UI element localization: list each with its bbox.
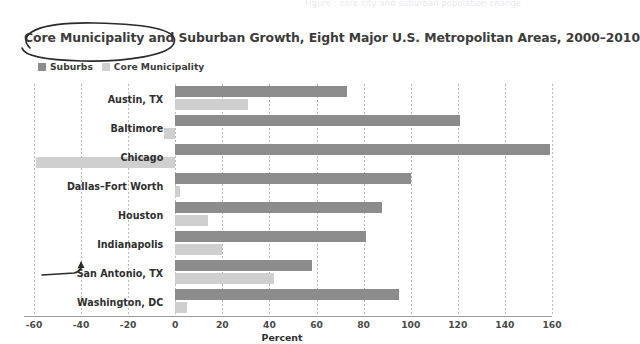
- bar-suburbs-5: [175, 231, 366, 242]
- faint-header-text: Figure · core city and suburban populati…: [305, 0, 565, 10]
- category-label-6: San Antonio, TX: [0, 259, 169, 288]
- bar-suburbs-6: [175, 260, 312, 271]
- bar-core-municipality-4: [175, 215, 208, 226]
- x-tick-label-160: 160: [542, 319, 561, 330]
- bar-suburbs-4: [175, 202, 382, 213]
- legend-label-core-municipality: Core Municipality: [114, 61, 204, 72]
- bar-core-municipality-1: [164, 128, 176, 139]
- bar-core-municipality-6: [175, 273, 274, 284]
- x-tick-label-0: 0: [172, 319, 178, 330]
- category-label-5: Indianapolis: [0, 230, 169, 259]
- bar-core-municipality-5: [175, 244, 222, 255]
- x-tick-label--20: -20: [120, 319, 137, 330]
- x-tick-label-120: 120: [448, 319, 467, 330]
- chart-row: Indianapolis: [0, 230, 564, 259]
- legend-label-suburbs: Suburbs: [50, 61, 93, 72]
- bar-core-municipality-0: [175, 99, 248, 110]
- legend-swatch-core-municipality: [102, 63, 110, 71]
- bar-suburbs-1: [175, 115, 460, 126]
- x-tick-label-80: 80: [357, 319, 370, 330]
- bar-core-municipality-2: [36, 157, 175, 168]
- chart-legend: Suburbs Core Municipality: [38, 61, 204, 72]
- chart-row: Baltimore: [0, 114, 564, 143]
- x-tick-label-60: 60: [310, 319, 323, 330]
- category-label-4: Houston: [0, 201, 169, 230]
- bar-core-municipality-7: [175, 302, 187, 313]
- chart-row: Dallas–Fort Worth: [0, 172, 564, 201]
- category-label-0: Austin, TX: [0, 85, 169, 114]
- x-tick-label-140: 140: [495, 319, 514, 330]
- bar-suburbs-2: [175, 144, 549, 155]
- chart-title: Core Municipality and Suburban Growth, E…: [24, 30, 640, 45]
- x-axis-title: Percent: [0, 332, 564, 343]
- category-label-3: Dallas–Fort Worth: [0, 172, 169, 201]
- category-label-7: Washington, DC: [0, 288, 169, 317]
- chart-row: Washington, DC: [0, 288, 564, 317]
- bar-core-municipality-3: [175, 186, 180, 197]
- chart-plot-area: Austin, TXBaltimoreChicagoDallas–Fort Wo…: [0, 84, 564, 316]
- chart-row: Chicago: [0, 143, 564, 172]
- legend-item-core-municipality: Core Municipality: [102, 61, 204, 72]
- x-tick-label-100: 100: [401, 319, 420, 330]
- x-tick-label-40: 40: [263, 319, 276, 330]
- chart-row: San Antonio, TX: [0, 259, 564, 288]
- bar-suburbs-0: [175, 86, 347, 97]
- bar-suburbs-3: [175, 173, 410, 184]
- chart-row: Houston: [0, 201, 564, 230]
- x-tick-label--60: -60: [26, 319, 43, 330]
- legend-swatch-suburbs: [38, 63, 46, 71]
- category-label-1: Baltimore: [0, 114, 169, 143]
- bar-suburbs-7: [175, 289, 399, 300]
- x-tick-label--40: -40: [73, 319, 90, 330]
- legend-item-suburbs: Suburbs: [38, 61, 93, 72]
- x-tick-label-20: 20: [216, 319, 229, 330]
- chart-row: Austin, TX: [0, 85, 564, 114]
- x-axis-line: [24, 316, 552, 317]
